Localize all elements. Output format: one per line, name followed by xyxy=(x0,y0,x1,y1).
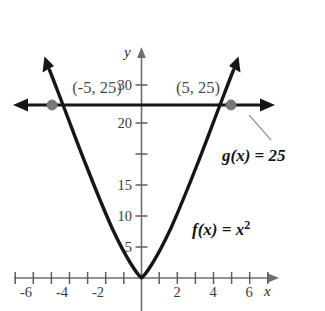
intersection-point-left xyxy=(47,100,57,110)
intersection-point-right xyxy=(226,100,236,110)
label-f-of-x-text: f(x) = x xyxy=(192,220,245,239)
label-g-of-x: g(x) = 25 xyxy=(221,146,286,165)
x-tick-label-6: 6 xyxy=(245,284,252,300)
y-axis-label: y xyxy=(122,44,131,60)
label-point-neg5-25: (-5, 25) xyxy=(72,78,121,97)
y-tick-label-15: 15 xyxy=(118,177,133,193)
x-axis-arrow-icon xyxy=(268,274,279,283)
graph-figure: 5 10 15 20 30 -6 -4 -2 2 4 6 y x (-5, 25… xyxy=(0,0,325,311)
x-axis-label: x xyxy=(263,283,271,299)
y-axis-arrow-icon xyxy=(137,47,146,58)
x-tick-label-2: 2 xyxy=(173,284,180,300)
x-tick-label-neg6: -6 xyxy=(20,284,32,300)
g-label-leader-line xyxy=(249,115,271,140)
x-tick-label-4: 4 xyxy=(209,284,217,300)
y-tick-label-10: 10 xyxy=(118,208,133,224)
label-f-of-x: f(x) = x2 xyxy=(192,218,250,239)
y-tick-label-5: 5 xyxy=(125,239,132,255)
coordinate-plane-svg: 5 10 15 20 30 -6 -4 -2 2 4 6 y x (-5, 25… xyxy=(0,0,325,311)
x-tick-label-neg2: -2 xyxy=(92,284,104,300)
label-point-5-25: (5, 25) xyxy=(176,78,220,97)
x-tick-label-neg4: -4 xyxy=(56,284,69,300)
y-tick-label-20: 20 xyxy=(118,115,133,131)
label-f-of-x-exponent: 2 xyxy=(244,218,250,232)
g-line-left-arrow-icon xyxy=(13,99,28,112)
g-line-right-arrow-icon xyxy=(260,99,275,112)
